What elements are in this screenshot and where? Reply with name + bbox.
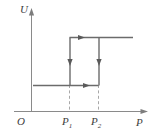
dashed-guides-group [70,85,99,111]
y-axis-label: U [20,3,29,15]
upper-branch-arrow-right-icon [78,35,85,40]
origin-label: O [17,115,25,127]
tick-label-p1-subscript: 1 [69,122,73,130]
left-transition-arrow-down-icon [67,59,72,66]
tick-label-p1: P1 [61,115,72,130]
tick-label-p2: P2 [90,115,102,130]
right-transition-arrow-down-icon [96,59,101,66]
labels-group: U P O P1 P2 [17,3,143,130]
hysteresis-plot: U P O P1 P2 [0,0,152,137]
x-axis-label: P [135,116,143,128]
figure-root: U P O P1 P2 [0,0,152,137]
axis-arrow-right-icon [141,109,149,114]
axes-group [14,8,148,114]
axis-arrow-up-icon [29,8,34,16]
hysteresis-curve-group [33,35,133,88]
lower-branch-arrow-right-icon [83,83,90,88]
tick-label-p2-subscript: 2 [98,122,102,130]
